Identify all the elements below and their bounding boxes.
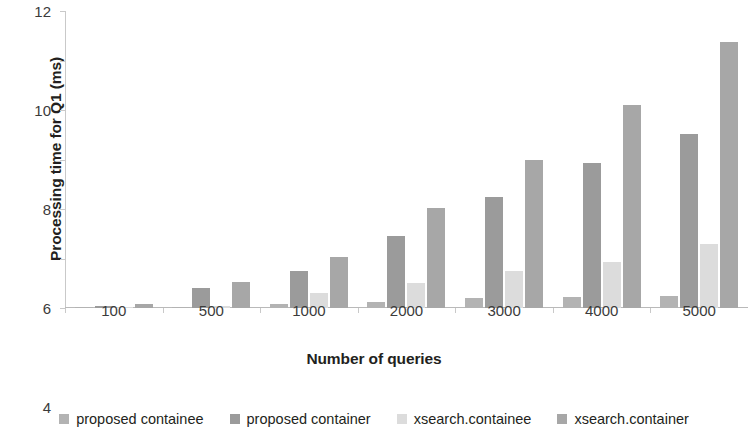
bar-group (650, 11, 748, 308)
bar (270, 304, 288, 308)
bar (387, 236, 405, 308)
x-tick-label: 5000 (683, 302, 716, 319)
bar (330, 257, 348, 308)
bar-chart: Processing time for Q1 (ms) 024681012 10… (0, 0, 748, 439)
bar (583, 163, 601, 308)
bar (680, 134, 698, 308)
x-tick-label: 2000 (390, 302, 423, 319)
legend-swatch-icon (397, 414, 407, 424)
x-tick (358, 308, 359, 313)
legend-item[interactable]: proposed container (230, 411, 371, 427)
plot-area: 024681012 (65, 11, 748, 308)
legend-label: proposed containee (76, 411, 203, 427)
x-tick-label: 4000 (585, 302, 618, 319)
x-tick-label: 500 (199, 302, 224, 319)
x-axis-title: Number of queries (0, 350, 748, 368)
y-tick-label: 10 (34, 102, 51, 119)
bar-group (358, 11, 456, 308)
bar (485, 197, 503, 308)
legend-label: proposed container (247, 411, 371, 427)
bar-group (65, 11, 163, 308)
bar (563, 297, 581, 308)
bar-group (163, 11, 261, 308)
bar (75, 307, 93, 308)
bar (660, 296, 678, 308)
chart-legend: proposed containeeproposed containerxsea… (0, 411, 748, 427)
bar-group (260, 11, 358, 308)
bar (135, 304, 153, 308)
x-tick (163, 308, 164, 313)
legend-item[interactable]: xsearch.containee (397, 411, 532, 427)
bar (172, 307, 190, 308)
legend-label: xsearch.containee (414, 411, 532, 427)
x-tick (65, 308, 66, 313)
bar (232, 282, 250, 308)
bar (465, 298, 483, 308)
y-tick-label: 6 (43, 300, 51, 317)
legend-swatch-icon (557, 414, 567, 424)
bar-group (553, 11, 651, 308)
legend-swatch-icon (230, 414, 240, 424)
y-tick-label: 8 (43, 201, 51, 218)
y-tick-label: 12 (34, 3, 51, 20)
x-tick (455, 308, 456, 313)
x-tick-label: 100 (101, 302, 126, 319)
bar-group (455, 11, 553, 308)
x-tick (650, 308, 651, 313)
bar (720, 42, 738, 308)
x-tick-label: 1000 (292, 302, 325, 319)
x-tick-label: 3000 (487, 302, 520, 319)
bar (525, 160, 543, 309)
x-tick (260, 308, 261, 313)
bar (427, 208, 445, 308)
bar (700, 244, 718, 308)
bar (623, 105, 641, 308)
bar (367, 302, 385, 308)
legend-item[interactable]: xsearch.container (557, 411, 688, 427)
x-tick (553, 308, 554, 313)
legend-item[interactable]: proposed containee (59, 411, 203, 427)
legend-label: xsearch.container (574, 411, 688, 427)
legend-swatch-icon (59, 414, 69, 424)
